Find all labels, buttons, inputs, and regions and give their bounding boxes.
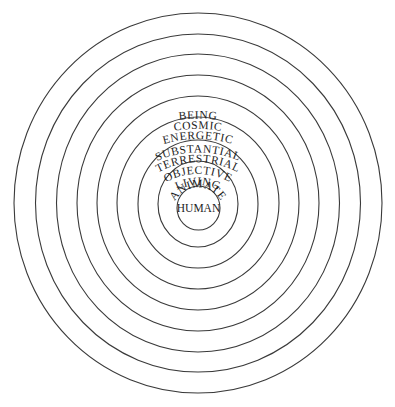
concentric-diagram: BEING COSMIC ENERGETIC SUBSTANTIAL TERRE…	[0, 0, 395, 407]
diagram-canvas: BEING COSMIC ENERGETIC SUBSTANTIAL TERRE…	[0, 0, 395, 407]
label-human: HUMAN	[177, 202, 221, 214]
